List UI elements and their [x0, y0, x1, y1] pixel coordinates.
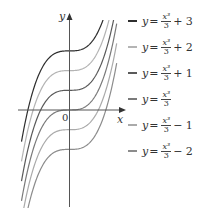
legend-item: y=x³3− 2 [128, 138, 212, 164]
legend-swatch [128, 72, 137, 74]
legend-swatch [128, 98, 137, 100]
legend-label: y=x³3− 1 [142, 117, 193, 134]
legend: y=x³3+ 3y=x³3+ 2y=x³3+ 1y=x³3y=x³3− 1y=x… [128, 8, 212, 164]
legend-label: y=x³3 [142, 91, 173, 108]
legend-label: y=x³3+ 3 [142, 13, 193, 30]
legend-item: y=x³3+ 3 [128, 8, 212, 34]
legend-item: y=x³3 [128, 86, 212, 112]
legend-label: y=x³3+ 2 [142, 39, 193, 56]
legend-swatch [128, 150, 137, 152]
legend-item: y=x³3− 1 [128, 112, 212, 138]
legend-swatch [128, 46, 137, 48]
legend-label: y=x³3+ 1 [142, 65, 193, 82]
legend-item: y=x³3+ 1 [128, 60, 212, 86]
y-axis-arrow-icon [67, 13, 73, 20]
legend-swatch [128, 20, 137, 22]
x-axis-label: x [117, 113, 123, 126]
legend-swatch [128, 124, 137, 126]
legend-item: y=x³3+ 2 [128, 34, 212, 60]
origin-label: 0 [62, 112, 68, 123]
y-axis-label: y [59, 10, 65, 23]
legend-label: y=x³3− 2 [142, 143, 193, 160]
